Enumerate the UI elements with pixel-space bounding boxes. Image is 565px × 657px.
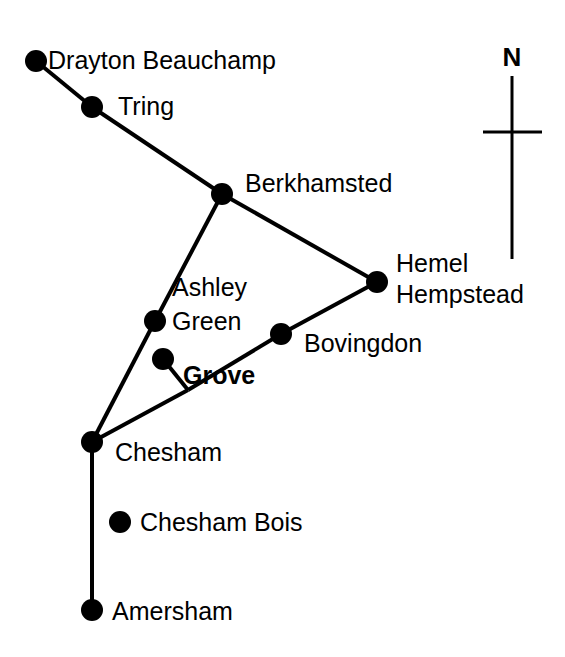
settlement-label-ashley-green-line1: Ashley	[172, 273, 248, 301]
settlement-node-hemel-hempstead[interactable]	[366, 271, 388, 293]
settlement-node-drayton-beauchamp[interactable]	[25, 50, 47, 72]
settlement-label-ashley-green: Green	[172, 307, 241, 335]
settlement-label-drayton-beauchamp: Drayton Beauchamp	[48, 46, 276, 74]
settlement-node-amersham[interactable]	[81, 599, 103, 621]
route-line-hemel-bovingdon	[281, 282, 377, 334]
settlement-label-berkhamsted: Berkhamsted	[245, 169, 392, 197]
route-line-berkhamsted-hemel	[222, 194, 377, 282]
settlement-label-tring: Tring	[118, 92, 174, 120]
settlement-label-hemel-hempstead: Hemel	[396, 249, 468, 277]
compass-rose: N	[483, 42, 542, 259]
settlement-label-bovingdon: Bovingdon	[304, 329, 422, 357]
settlement-node-chesham[interactable]	[81, 431, 103, 453]
settlement-node-bovingdon[interactable]	[270, 323, 292, 345]
settlement-node-chesham-bois[interactable]	[109, 511, 131, 533]
settlement-label-chesham: Chesham	[115, 438, 222, 466]
map-canvas: Drayton BeauchampTringBerkhamstedHemelGr…	[0, 0, 565, 657]
settlement-node-tring[interactable]	[81, 96, 103, 118]
map-diagram: Drayton BeauchampTringBerkhamstedHemelGr…	[0, 0, 565, 657]
route-line-berkhamsted-ashley	[155, 194, 222, 321]
settlement-node-grove[interactable]	[152, 348, 174, 370]
compass-north-label: N	[503, 42, 522, 72]
settlement-label-chesham-bois: Chesham Bois	[140, 508, 303, 536]
settlement-label-hemel-line2: Hempstead	[396, 280, 524, 308]
settlement-label-amersham: Amersham	[112, 597, 233, 625]
settlement-label-grove: Grove	[183, 361, 255, 389]
route-line-tring-berkhamsted	[92, 107, 222, 194]
settlement-node-ashley-green[interactable]	[144, 310, 166, 332]
settlement-node-berkhamsted[interactable]	[211, 183, 233, 205]
